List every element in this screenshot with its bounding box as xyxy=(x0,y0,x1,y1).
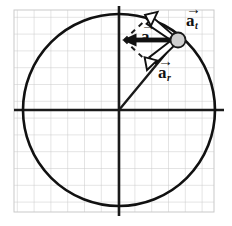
vector-harpoon-at: → xyxy=(186,2,201,17)
label-ar-subscript: r xyxy=(167,72,171,83)
diagram-canvas xyxy=(0,0,232,226)
vector-harpoon-a: → xyxy=(141,18,156,33)
label-total-acceleration: →a xyxy=(141,28,150,45)
label-tangential-acceleration: →at xyxy=(186,12,197,29)
physics-vector-diagram: →a →at →ar xyxy=(0,0,232,226)
label-radial-acceleration: →ar xyxy=(158,64,170,81)
vector-harpoon-ar: → xyxy=(158,54,173,69)
label-at-subscript: t xyxy=(195,20,198,31)
particle-ball xyxy=(171,33,186,48)
